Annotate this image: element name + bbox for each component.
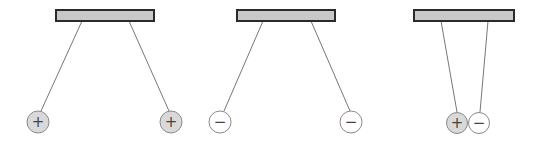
support-bar bbox=[56, 10, 154, 21]
string bbox=[480, 21, 488, 112]
minus-sign-icon: − bbox=[214, 113, 227, 131]
negative-charged-ball: − bbox=[340, 111, 362, 133]
plus-sign-icon: + bbox=[451, 114, 464, 132]
string bbox=[441, 21, 457, 112]
negative-charged-ball: − bbox=[469, 113, 490, 134]
negative-charged-ball: − bbox=[209, 111, 231, 133]
charge-diagram: ++−−+− bbox=[0, 0, 539, 150]
panel-opposite-attract: +− bbox=[414, 10, 514, 134]
string bbox=[311, 21, 350, 111]
positive-charged-ball: + bbox=[160, 111, 182, 133]
panel-like-positive-repel: ++ bbox=[27, 10, 182, 133]
support-bar bbox=[414, 10, 514, 21]
plus-sign-icon: + bbox=[165, 113, 178, 131]
string bbox=[129, 21, 169, 111]
positive-charged-ball: + bbox=[447, 113, 468, 134]
plus-sign-icon: + bbox=[32, 113, 45, 131]
support-bar bbox=[237, 10, 335, 21]
minus-sign-icon: − bbox=[473, 114, 486, 132]
string bbox=[224, 21, 263, 111]
minus-sign-icon: − bbox=[345, 113, 358, 131]
string bbox=[41, 21, 82, 111]
positive-charged-ball: + bbox=[27, 111, 49, 133]
panel-like-negative-repel: −− bbox=[209, 10, 362, 133]
